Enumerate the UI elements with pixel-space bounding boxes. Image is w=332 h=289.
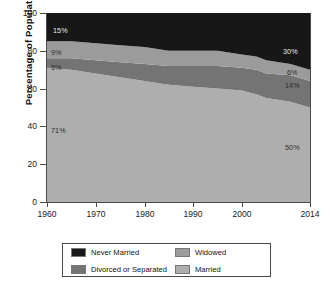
data-label-divorced-right: 14%	[285, 81, 300, 90]
x-tick-label-1990: 1990	[173, 209, 213, 219]
legend-label-divorced-or-separated: Divorced or Separated	[91, 265, 167, 274]
x-tick-label-1980: 1980	[125, 209, 165, 219]
area-bands	[47, 13, 310, 202]
data-label-married-right: 50%	[285, 143, 300, 152]
y-tick-label-0: 0	[14, 198, 37, 206]
x-tick-2014	[310, 202, 311, 207]
legend-swatch-never-married	[71, 248, 86, 257]
x-tick-label-2000: 2000	[222, 209, 262, 219]
y-tick-label-100: 100	[14, 9, 37, 17]
legend-label-never-married: Never Married	[91, 248, 139, 257]
y-tick-label-60: 60	[14, 85, 37, 93]
legend-item-married[interactable]: Married	[167, 265, 272, 274]
stacked-area-chart: Percentage of Population 100 80 60 40 20…	[0, 0, 332, 289]
x-axis-line	[47, 202, 311, 203]
x-tick-label-1960: 1960	[27, 209, 67, 219]
legend-swatch-widowed	[175, 248, 190, 257]
legend-swatch-married	[175, 265, 190, 274]
data-label-married-left: 71%	[51, 126, 66, 135]
legend-label-married: Married	[195, 265, 221, 274]
data-label-widowed-left: 9%	[51, 48, 62, 57]
chart-legend: Never Married Widowed Divorced or Separa…	[62, 243, 271, 277]
plot-area	[47, 13, 310, 202]
x-tick-label-2014: 2014	[290, 209, 330, 219]
y-tick-label-80: 80	[14, 47, 37, 55]
x-tick-1990	[193, 202, 194, 207]
legend-item-widowed[interactable]: Widowed	[167, 248, 272, 257]
x-tick-1980	[145, 202, 146, 207]
data-label-never-married-right: 30%	[283, 47, 298, 56]
y-tick-label-20: 20	[14, 160, 37, 168]
x-tick-2000	[242, 202, 243, 207]
data-label-divorced-left: 5%	[51, 63, 62, 72]
legend-item-divorced-or-separated[interactable]: Divorced or Separated	[63, 265, 167, 274]
plot-right-edge	[310, 13, 311, 203]
legend-swatch-divorced-or-separated	[71, 265, 86, 274]
data-label-widowed-right: 6%	[287, 68, 298, 77]
x-tick-1960	[47, 202, 48, 207]
data-label-never-married-left: 15%	[53, 26, 68, 35]
x-tick-1970	[96, 202, 97, 207]
legend-item-never-married[interactable]: Never Married	[63, 248, 167, 257]
y-axis-title: Percentage of Population	[23, 0, 34, 136]
y-tick-label-40: 40	[14, 122, 37, 130]
legend-label-widowed: Widowed	[195, 248, 226, 257]
x-tick-label-1970: 1970	[76, 209, 116, 219]
y-axis-line	[46, 13, 47, 203]
